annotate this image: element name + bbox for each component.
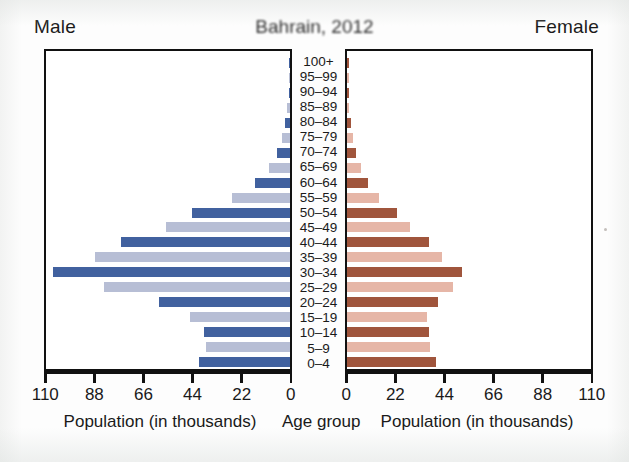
female-bar-row (347, 71, 591, 86)
male-bar (285, 118, 290, 128)
male-bar-row (46, 71, 290, 86)
axis-tick (345, 371, 348, 383)
male-bar-row (46, 101, 290, 116)
age-group-label: 40–44 (292, 235, 345, 250)
female-bar (347, 282, 453, 292)
male-bar-row (46, 295, 290, 310)
female-bar (347, 312, 427, 322)
axis-tick (541, 371, 544, 383)
male-bar-row (46, 339, 290, 354)
age-group-label: 45–49 (292, 220, 345, 235)
male-bar-row (46, 116, 290, 131)
axis-tick-label: 0 (286, 385, 295, 405)
female-bar (347, 193, 379, 203)
male-bar-row (46, 250, 290, 265)
female-bar (347, 133, 353, 143)
age-group-label: 70–74 (292, 145, 345, 160)
female-x-axis (345, 371, 593, 383)
female-bar (347, 357, 436, 367)
male-bar (104, 282, 290, 292)
axis-tick-label: 110 (578, 385, 605, 405)
female-bar-row (347, 160, 591, 175)
age-group-label: 55–59 (292, 190, 345, 205)
female-bar-row (347, 295, 591, 310)
female-bar-row (347, 205, 591, 220)
population-pyramid-figure: Male Bahrain, 2012 Female 100+95–9990–94… (0, 0, 629, 462)
male-bar-row (46, 190, 290, 205)
male-bar-row (46, 309, 290, 324)
age-group-label: 75–79 (292, 129, 345, 144)
male-bar (255, 178, 290, 188)
male-bar (289, 73, 291, 83)
female-bar (347, 103, 349, 113)
female-bar (347, 267, 462, 277)
female-bar-row (347, 56, 591, 71)
male-bar-row (46, 220, 290, 235)
male-x-axis (44, 371, 292, 383)
female-bar-row (347, 131, 591, 146)
age-group-label: 35–39 (292, 250, 345, 265)
age-group-label: 20–24 (292, 296, 345, 311)
male-bar (166, 222, 290, 232)
female-bar-row (347, 220, 591, 235)
axis-tick-label: 88 (85, 385, 104, 405)
axis-tick-label: 44 (435, 385, 454, 405)
scan-artifact (604, 228, 607, 231)
female-axis-line (345, 371, 593, 374)
male-bar (204, 327, 291, 337)
axis-tick-label: 66 (134, 385, 153, 405)
male-bar (53, 267, 290, 277)
male-bar (269, 163, 290, 173)
age-group-label: 90–94 (292, 84, 345, 99)
female-bar (347, 222, 410, 232)
age-group-axis: 100+95–9990–9485–8980–8475–7970–7465–696… (292, 49, 345, 371)
male-bar (95, 252, 290, 262)
female-bar-row (347, 101, 591, 116)
male-bar (206, 342, 290, 352)
female-bar-row (347, 190, 591, 205)
female-bar-row (347, 86, 591, 101)
female-bar (347, 148, 356, 158)
axis-tick-label: 110 (32, 385, 59, 405)
axis-tick (492, 371, 495, 383)
male-bar-row (46, 265, 290, 280)
male-bar (277, 148, 290, 158)
age-group-label: 0–4 (292, 356, 345, 371)
female-axis-title: Population (in thousands) (337, 412, 617, 432)
female-bar-rows (347, 51, 591, 369)
male-bar-rows (46, 51, 290, 369)
age-group-label: 10–14 (292, 326, 345, 341)
female-bar (347, 163, 361, 173)
female-bar-row (347, 265, 591, 280)
age-group-label: 25–29 (292, 280, 345, 295)
female-bar (347, 178, 368, 188)
female-tick-labels: 022446688110 (345, 385, 593, 407)
female-bar (347, 208, 397, 218)
female-bar-row (347, 145, 591, 160)
male-bar-row (46, 160, 290, 175)
male-bar (289, 58, 291, 68)
male-bar (192, 208, 290, 218)
female-heading: Female (534, 16, 599, 38)
axis-tick-label: 88 (533, 385, 552, 405)
male-bar (289, 88, 291, 98)
axis-tick (191, 371, 194, 383)
male-bar (287, 103, 290, 113)
age-group-label: 95–99 (292, 69, 345, 84)
male-axis-title: Population (in thousands) (20, 412, 300, 432)
male-bar-row (46, 354, 290, 369)
male-bar-row (46, 280, 290, 295)
axis-tick (290, 371, 293, 383)
axis-tick (44, 371, 47, 383)
male-bar (199, 357, 290, 367)
male-axis-line (44, 371, 292, 374)
age-group-label: 50–54 (292, 205, 345, 220)
female-bar (347, 58, 349, 68)
female-bar-row (347, 235, 591, 250)
age-group-label: 15–19 (292, 311, 345, 326)
female-bar (347, 237, 429, 247)
age-group-label: 65–69 (292, 160, 345, 175)
axis-tick-label: 0 (342, 385, 351, 405)
axis-tick (142, 371, 145, 383)
male-bar (232, 193, 290, 203)
